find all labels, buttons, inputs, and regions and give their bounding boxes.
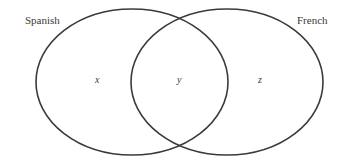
region-french-only-label: z <box>258 74 262 85</box>
french-set-label: French <box>297 14 328 26</box>
french-set-circle <box>131 9 323 155</box>
spanish-set-label: Spanish <box>25 14 60 26</box>
region-both-label: y <box>177 74 181 85</box>
region-spanish-only-label: x <box>95 74 99 85</box>
spanish-set-circle <box>36 9 228 155</box>
